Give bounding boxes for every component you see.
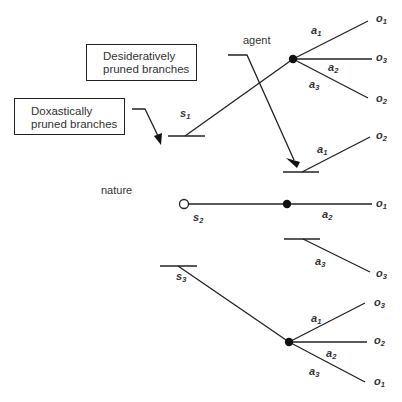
nature-node	[180, 200, 189, 209]
box-line: pruned branches	[31, 118, 124, 131]
action-a1: a1	[317, 143, 327, 157]
action-a2: a2	[322, 208, 332, 222]
outcome-o2: o2	[376, 92, 387, 106]
outcome-o1: o1	[376, 12, 387, 26]
agent-label: agent	[243, 34, 271, 46]
state-s1: s1	[180, 107, 190, 121]
box-line: Doxastically	[31, 105, 124, 118]
box-line: Desideratively	[103, 50, 196, 63]
agent-node-top	[289, 55, 297, 63]
action-a3: a3	[309, 365, 319, 379]
arrowhead-icon	[286, 158, 300, 168]
action-a1: a1	[311, 312, 321, 326]
outcome-o1: o1	[374, 375, 385, 389]
outcome-o3: o3	[376, 51, 387, 65]
state-s3: s3	[176, 270, 186, 284]
doxastically-pruned-box: Doxastically pruned branches	[14, 98, 125, 135]
action-a3: a3	[309, 78, 319, 92]
action-a2: a2	[326, 347, 336, 361]
agent-node-middle	[283, 200, 291, 208]
box-line: pruned branches	[103, 63, 196, 76]
nature-label: nature	[101, 184, 132, 196]
desideratively-pruned-box: Desideratively pruned branches	[86, 44, 197, 81]
outcome-o3: o3	[374, 296, 385, 310]
outcome-o3: o3	[376, 267, 387, 281]
decision-tree-lines	[0, 0, 402, 402]
action-a2: a2	[328, 61, 338, 75]
agent-node-bottom	[285, 338, 293, 346]
outcome-o2: o2	[376, 129, 387, 143]
outcome-o1: o1	[376, 197, 387, 211]
action-a1: a1	[311, 24, 321, 38]
outcome-o2: o2	[374, 334, 385, 348]
arrowhead-icon	[154, 133, 162, 145]
state-s2: s2	[193, 211, 203, 225]
action-a3: a3	[315, 255, 325, 269]
